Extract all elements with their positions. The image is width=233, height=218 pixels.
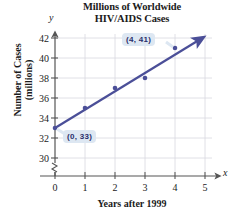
chart-plot-area (0, 0, 233, 218)
annotation-callout-4-41: (4, 41) (122, 33, 155, 46)
data-point (53, 126, 58, 131)
data-point (113, 86, 118, 91)
grid-lines-vertical (85, 34, 205, 172)
data-point (143, 76, 148, 81)
chart-figure: Millions of Worldwide HIV/AIDS Cases Num… (0, 0, 233, 218)
y-axis-break-symbol (52, 163, 57, 172)
trend-line (55, 40, 199, 128)
data-point (83, 106, 88, 111)
callout-leader-line-4-41 (166, 42, 173, 47)
annotation-callout-0-33: (0, 33) (63, 130, 96, 143)
